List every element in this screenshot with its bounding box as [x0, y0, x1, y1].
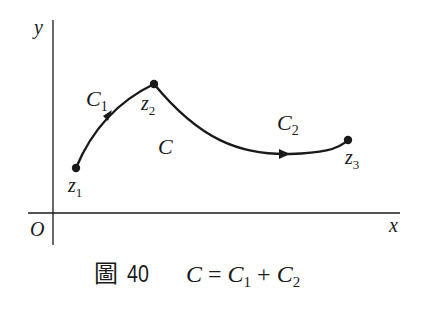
- origin-label: O: [30, 218, 44, 240]
- y-axis-label: y: [32, 16, 43, 39]
- caption-prefix: 圖: [94, 260, 118, 288]
- caption-equation: C = C1 + C2: [186, 261, 300, 290]
- label-z2: z2: [140, 92, 155, 118]
- c2-direction-arrow-icon: [279, 149, 290, 159]
- label-region-c: C: [158, 134, 173, 159]
- label-z1: z1: [67, 174, 82, 200]
- label-c2: C2: [277, 110, 299, 138]
- point-z1: [72, 164, 80, 172]
- x-axis-label: x: [388, 214, 398, 236]
- curve-c2: [154, 84, 348, 154]
- point-z3: [344, 136, 352, 144]
- label-c1: C1: [86, 86, 108, 114]
- caption-number: 40: [127, 260, 149, 287]
- point-z2: [150, 80, 158, 88]
- label-z3: z3: [344, 146, 359, 172]
- contour-diagram: y x O z1 z2 z3 C1 C2 C 圖 40 C = C1 + C2: [0, 0, 426, 312]
- figure-caption: 圖 40 C = C1 + C2: [94, 260, 300, 290]
